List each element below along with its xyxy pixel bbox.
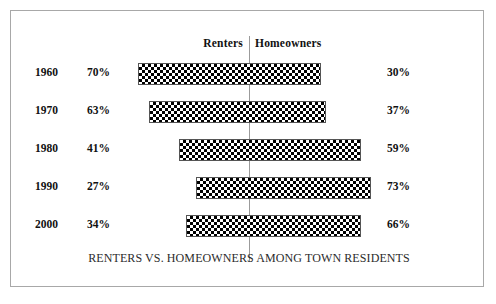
renter-percent-label: 63% bbox=[87, 104, 125, 116]
homeowner-percent-label: 66% bbox=[387, 218, 433, 230]
table-row: 2000 34% 66% bbox=[1, 211, 496, 241]
homeowner-percent-label: 30% bbox=[387, 66, 433, 78]
stacked-bar bbox=[179, 139, 361, 161]
table-row: 1990 27% 73% bbox=[1, 173, 496, 203]
table-row: 1960 70% 30% bbox=[1, 59, 496, 89]
renter-percent-label: 70% bbox=[87, 66, 125, 78]
chart-title: RENTERS VS. HOMEOWNERS AMONG TOWN RESIDE… bbox=[1, 251, 496, 266]
renter-percent-label: 27% bbox=[87, 180, 125, 192]
stacked-bar bbox=[196, 177, 371, 199]
year-label: 2000 bbox=[35, 218, 79, 230]
table-row: 1970 63% 37% bbox=[1, 97, 496, 127]
column-headers: Renters Homeowners bbox=[1, 37, 496, 53]
year-label: 1970 bbox=[35, 104, 79, 116]
homeowner-percent-label: 37% bbox=[387, 104, 433, 116]
renter-percent-label: 41% bbox=[87, 142, 125, 154]
year-label: 1960 bbox=[35, 66, 79, 78]
year-label: 1980 bbox=[35, 142, 79, 154]
column-header-renters: Renters bbox=[203, 37, 243, 49]
renter-percent-label: 34% bbox=[87, 218, 125, 230]
stacked-bar bbox=[149, 101, 326, 123]
homeowner-percent-label: 59% bbox=[387, 142, 433, 154]
chart-frame: Renters Homeowners 1960 70% 30% 1970 63%… bbox=[10, 10, 484, 287]
table-row: 1980 41% 59% bbox=[1, 135, 496, 165]
homeowner-percent-label: 73% bbox=[387, 180, 433, 192]
stacked-bar bbox=[138, 63, 321, 85]
stacked-bar bbox=[186, 215, 361, 237]
year-label: 1990 bbox=[35, 180, 79, 192]
column-header-homeowners: Homeowners bbox=[255, 37, 322, 49]
